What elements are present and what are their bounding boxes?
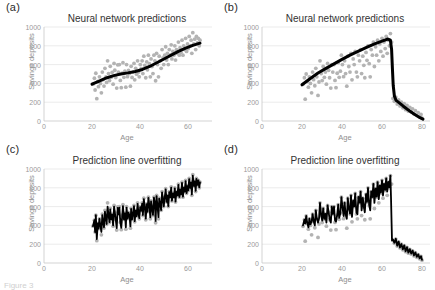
panel-c-label: (c) (6, 143, 19, 155)
panel-a-xtick: 20 (88, 123, 96, 130)
panel-c-ytick: 1000 (25, 166, 41, 173)
panel-a-xtick: 0 (42, 123, 46, 130)
panel-b-ytick: 600 (247, 61, 259, 68)
panel-b: (b) Neural network predictions Savings d… (218, 0, 435, 144)
panel-d-plot-area: 02004006008001000020406080 (262, 169, 430, 263)
panel-a-xtick: 60 (184, 123, 192, 130)
panel-d: (d) Prediction line overfitting Savings … (218, 142, 435, 286)
figure-caption: Figure 3 (4, 281, 33, 290)
panel-c-ytick: 400 (29, 222, 41, 229)
panel-a-ytick: 600 (29, 61, 41, 68)
panel-c-xtick: 20 (88, 265, 96, 272)
panel-c-svg (44, 169, 212, 263)
panel-a: (a) Neural network predictions Savings d… (0, 0, 217, 144)
panel-c-ytick: 200 (29, 241, 41, 248)
panel-d-svg (262, 169, 430, 263)
panel-a-label: (a) (6, 1, 20, 13)
panel-b-ytick: 0 (255, 118, 259, 125)
panel-a-ytick: 1000 (25, 24, 41, 31)
panel-b-ytick: 800 (247, 42, 259, 49)
panel-b-label: (b) (224, 1, 238, 13)
panel-d-ytick: 800 (247, 184, 259, 191)
panel-d-label: (d) (224, 143, 238, 155)
panel-c-xtick: 60 (184, 265, 192, 272)
panel-d-title: Prediction line overfitting (260, 155, 430, 166)
panel-d-ytick: 400 (247, 222, 259, 229)
panel-a-svg (44, 27, 212, 121)
panel-d-xtick: 60 (378, 265, 386, 272)
panel-c-xtick: 0 (42, 265, 46, 272)
panel-d-chart: Prediction line overfitting Savings depo… (230, 155, 433, 283)
panel-b-ytick: 1000 (243, 24, 259, 31)
panel-c: (c) Prediction line overfitting Savings … (0, 142, 217, 286)
panel-a-ytick: 0 (37, 118, 41, 125)
panel-d-ytick: 600 (247, 203, 259, 210)
panel-c-title: Prediction line overfitting (42, 155, 212, 166)
panel-b-title: Neural network predictions (260, 13, 430, 24)
panel-a-title: Neural network predictions (42, 13, 212, 24)
panel-d-xlabel: Age (260, 275, 430, 284)
panel-c-ytick: 600 (29, 203, 41, 210)
panel-a-plot-area: 020040060080010000204060 (44, 27, 212, 121)
panel-a-ytick: 800 (29, 42, 41, 49)
panel-a-xtick: 40 (136, 123, 144, 130)
panel-b-ytick: 200 (247, 99, 259, 106)
panel-c-ytick: 0 (37, 260, 41, 267)
panel-b-xtick: 60 (378, 123, 386, 130)
panel-b-xtick: 80 (418, 123, 426, 130)
panel-b-xtick: 20 (298, 123, 306, 130)
panel-a-ytick: 400 (29, 80, 41, 87)
panel-d-ytick: 1000 (243, 166, 259, 173)
panel-c-xlabel: Age (42, 275, 212, 284)
panel-a-xlabel: Age (42, 133, 212, 142)
panel-d-xtick: 40 (338, 265, 346, 272)
panel-c-plot-area: 020040060080010000204060 (44, 169, 212, 263)
panel-d-ytick: 0 (255, 260, 259, 267)
panel-b-xtick: 0 (260, 123, 264, 130)
panel-d-xtick: 20 (298, 265, 306, 272)
panel-b-xtick: 40 (338, 123, 346, 130)
panel-d-xtick: 0 (260, 265, 264, 272)
panel-b-ytick: 400 (247, 80, 259, 87)
panel-b-svg (262, 27, 430, 121)
panel-c-xtick: 40 (136, 265, 144, 272)
panel-c-ytick: 800 (29, 184, 41, 191)
panel-d-xtick: 80 (418, 265, 426, 272)
panel-b-plot-area: 02004006008001000020406080 (262, 27, 430, 121)
panel-b-chart: Neural network predictions Savings depos… (230, 13, 433, 141)
panel-b-xlabel: Age (260, 133, 430, 142)
panel-a-ytick: 200 (29, 99, 41, 106)
panel-a-chart: Neural network predictions Savings depos… (12, 13, 215, 141)
panel-d-ytick: 200 (247, 241, 259, 248)
panel-c-chart: Prediction line overfitting Savings depo… (12, 155, 215, 283)
